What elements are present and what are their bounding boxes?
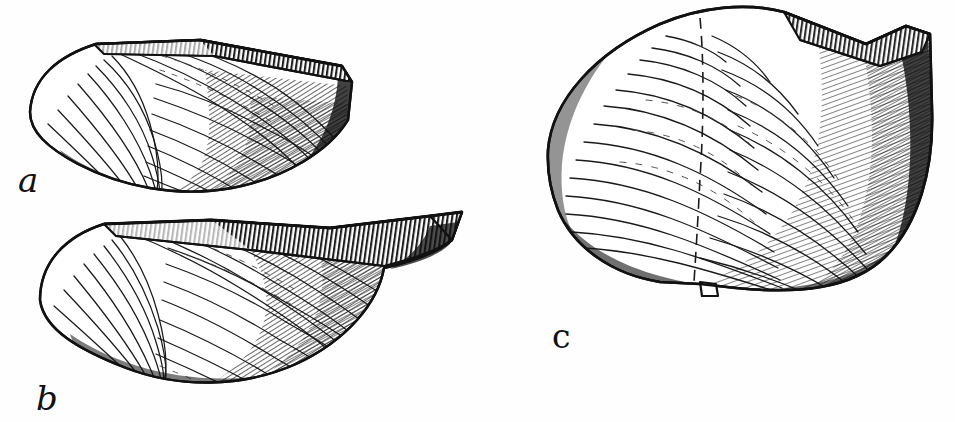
figure-label-c: c bbox=[552, 317, 570, 356]
figure-b: b bbox=[36, 212, 462, 418]
figure-c: c bbox=[548, 7, 932, 356]
plate-canvas: a bbox=[0, 0, 955, 422]
illustration-plate: a bbox=[0, 0, 955, 422]
figure-label-b: b bbox=[36, 378, 58, 418]
figure-label-a: a bbox=[18, 160, 38, 200]
figure-a: a bbox=[18, 40, 352, 228]
